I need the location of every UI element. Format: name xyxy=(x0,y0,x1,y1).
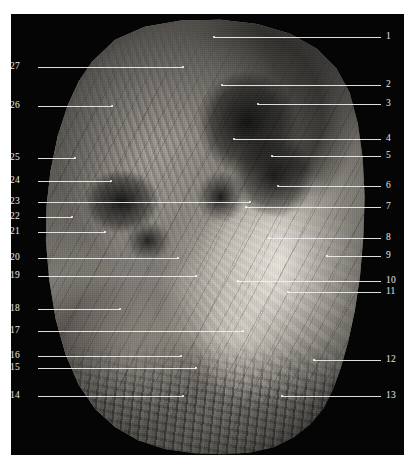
label-number-9[interactable]: 9 xyxy=(386,251,404,261)
leader-line-10 xyxy=(238,281,381,282)
leader-endpoint-6 xyxy=(277,185,279,187)
leader-line-21 xyxy=(38,232,105,233)
leader-endpoint-3 xyxy=(257,103,259,105)
leader-endpoint-5 xyxy=(271,155,273,157)
label-number-27[interactable]: 27 xyxy=(11,62,20,72)
label-number-12[interactable]: 12 xyxy=(386,355,404,365)
leader-endpoint-23 xyxy=(249,201,251,203)
label-number-7[interactable]: 7 xyxy=(386,202,404,212)
leader-line-17 xyxy=(38,331,243,332)
mounting-board: 2726252423222120191817161514123456789101… xyxy=(11,14,404,455)
label-number-25[interactable]: 25 xyxy=(11,153,20,163)
label-number-11[interactable]: 11 xyxy=(386,287,404,297)
leader-line-12 xyxy=(314,360,381,361)
leader-endpoint-19 xyxy=(195,275,197,277)
label-number-22[interactable]: 22 xyxy=(11,212,20,222)
leader-line-19 xyxy=(38,276,196,277)
label-number-16[interactable]: 16 xyxy=(11,351,20,361)
label-number-5[interactable]: 5 xyxy=(386,151,404,161)
label-number-4[interactable]: 4 xyxy=(386,134,404,144)
label-number-1[interactable]: 1 xyxy=(386,32,404,42)
leader-line-11 xyxy=(288,292,381,293)
leader-endpoint-11 xyxy=(287,291,289,293)
label-number-8[interactable]: 8 xyxy=(386,233,404,243)
leader-endpoint-20 xyxy=(177,257,179,259)
label-number-15[interactable]: 15 xyxy=(11,363,20,373)
label-number-26[interactable]: 26 xyxy=(11,101,20,111)
leader-line-1 xyxy=(214,37,381,38)
leader-line-5 xyxy=(272,156,381,157)
leader-endpoint-12 xyxy=(313,359,315,361)
label-number-23[interactable]: 23 xyxy=(11,197,20,207)
label-number-21[interactable]: 21 xyxy=(11,227,20,237)
leader-line-15 xyxy=(38,368,196,369)
label-number-17[interactable]: 17 xyxy=(11,326,20,336)
leader-line-6 xyxy=(278,186,381,187)
leader-endpoint-2 xyxy=(221,84,223,86)
leader-line-2 xyxy=(222,85,381,86)
leader-endpoint-24 xyxy=(110,180,112,182)
leader-endpoint-9 xyxy=(326,255,328,257)
label-number-2[interactable]: 2 xyxy=(386,80,404,90)
leader-line-23 xyxy=(38,202,250,203)
label-number-14[interactable]: 14 xyxy=(11,391,20,401)
leader-line-25 xyxy=(38,158,75,159)
specimen-photograph xyxy=(36,18,366,455)
edge-vignette xyxy=(36,18,366,455)
leader-line-16 xyxy=(38,356,181,357)
label-number-3[interactable]: 3 xyxy=(386,99,404,109)
label-number-24[interactable]: 24 xyxy=(11,176,20,186)
leader-line-9 xyxy=(327,256,381,257)
leader-line-3 xyxy=(258,104,381,105)
leader-line-27 xyxy=(38,67,183,68)
leader-endpoint-16 xyxy=(180,355,182,357)
leader-endpoint-10 xyxy=(237,280,239,282)
label-number-13[interactable]: 13 xyxy=(386,391,404,401)
leader-endpoint-18 xyxy=(119,308,121,310)
anatomy-plate: 2726252423222120191817161514123456789101… xyxy=(0,0,410,465)
leader-line-4 xyxy=(234,139,381,140)
leader-line-24 xyxy=(38,181,111,182)
leader-endpoint-8 xyxy=(268,237,270,239)
leader-endpoint-25 xyxy=(74,157,76,159)
leader-endpoint-14 xyxy=(182,395,184,397)
leader-endpoint-21 xyxy=(104,231,106,233)
leader-endpoint-7 xyxy=(245,206,247,208)
leader-line-8 xyxy=(269,238,381,239)
label-number-18[interactable]: 18 xyxy=(11,304,20,314)
label-number-20[interactable]: 20 xyxy=(11,253,20,263)
leader-endpoint-1 xyxy=(213,36,215,38)
label-number-19[interactable]: 19 xyxy=(11,271,20,281)
leader-line-20 xyxy=(38,258,178,259)
leader-endpoint-4 xyxy=(233,138,235,140)
leader-line-18 xyxy=(38,309,120,310)
leader-endpoint-17 xyxy=(242,330,244,332)
leader-line-7 xyxy=(246,207,381,208)
leader-line-22 xyxy=(38,217,72,218)
leader-endpoint-26 xyxy=(111,105,113,107)
leader-line-13 xyxy=(282,396,381,397)
leader-endpoint-27 xyxy=(182,66,184,68)
leader-line-26 xyxy=(38,106,112,107)
leader-line-14 xyxy=(38,396,183,397)
leader-endpoint-22 xyxy=(71,216,73,218)
leader-endpoint-13 xyxy=(281,395,283,397)
label-number-10[interactable]: 10 xyxy=(386,276,404,286)
label-number-6[interactable]: 6 xyxy=(386,181,404,191)
leader-endpoint-15 xyxy=(195,367,197,369)
